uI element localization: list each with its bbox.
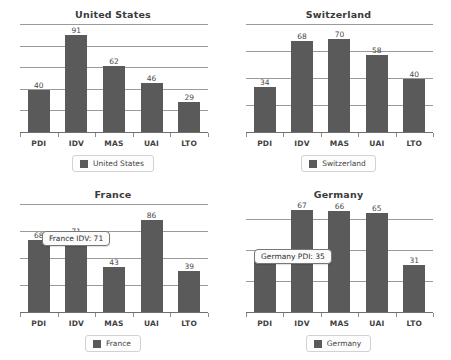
bar[interactable]: 46: [141, 83, 163, 133]
axis-tick: [208, 133, 209, 137]
x-axis-label-idv: IDV: [285, 319, 319, 328]
x-axis-labels: PDIIDVMASUAILTO: [20, 139, 208, 148]
bar-value-label: 46: [147, 74, 157, 83]
legend-label: France: [106, 339, 131, 348]
axis-tick: [321, 313, 322, 317]
chart-panel-france: France6871438639France IDV: 71PDIIDVMASU…: [0, 180, 226, 360]
bar-value-label: 39: [184, 262, 194, 271]
legend: United States: [0, 155, 226, 172]
bar[interactable]: 39: [178, 271, 200, 313]
axis-tick: [20, 133, 21, 137]
bar[interactable]: 68: [291, 41, 313, 133]
x-axis-label-lto: LTO: [172, 319, 206, 328]
x-axis-label-uai: UAI: [135, 139, 169, 148]
legend-label: Germany: [327, 339, 361, 348]
bar-slot: 46: [135, 25, 169, 133]
axis-tick: [208, 313, 209, 317]
x-axis-ticks: [246, 313, 433, 319]
bar[interactable]: 62: [103, 66, 125, 133]
bar[interactable]: 58: [366, 55, 388, 133]
axis-tick: [358, 313, 359, 317]
bar-slot: 65: [360, 205, 394, 313]
bar-slot: 29: [172, 25, 206, 133]
x-axis-label-pdi: PDI: [248, 139, 282, 148]
bar[interactable]: 34: [254, 87, 276, 133]
bar[interactable]: 40: [403, 79, 425, 133]
bar-slot: 43: [97, 205, 131, 313]
bar[interactable]: 71: [65, 236, 87, 313]
axis-tick: [170, 313, 171, 317]
axis-tick: [433, 133, 434, 137]
axis-tick: [170, 133, 171, 137]
x-axis-ticks: [20, 133, 208, 139]
bar-slot: 68: [22, 205, 56, 313]
bar[interactable]: 40: [28, 90, 50, 133]
legend: Switzerland: [226, 155, 451, 172]
bar[interactable]: 29: [178, 102, 200, 133]
bar-value-label: 65: [372, 204, 382, 213]
chart-title: United States: [0, 0, 226, 20]
axis-tick: [246, 133, 247, 137]
chart-title: Switzerland: [226, 0, 451, 20]
bar[interactable]: 31: [403, 265, 425, 313]
bar[interactable]: 68: [28, 240, 50, 313]
bar-value-label: 68: [297, 32, 307, 41]
legend-item[interactable]: France: [85, 335, 141, 352]
legend-swatch-icon: [309, 160, 317, 168]
legend-item[interactable]: Switzerland: [301, 155, 376, 172]
bar-slot: 34: [248, 25, 282, 133]
chart-title: Germany: [226, 180, 451, 200]
bar[interactable]: 35: [254, 259, 276, 313]
bar[interactable]: 43: [103, 267, 125, 313]
legend-item[interactable]: United States: [72, 155, 154, 172]
bar-series: 3468705840: [246, 25, 433, 133]
legend-label: Switzerland: [322, 159, 366, 168]
x-axis-label-idv: IDV: [59, 319, 93, 328]
bar-value-label: 66: [335, 202, 345, 211]
bar-value-label: 58: [372, 46, 382, 55]
x-axis-label-idv: IDV: [59, 139, 93, 148]
x-axis-label-lto: LTO: [397, 139, 431, 148]
x-axis-labels: PDIIDVMASUAILTO: [246, 319, 433, 328]
axis-tick: [133, 133, 134, 137]
bar-value-label: 43: [109, 258, 119, 267]
axis-tick: [283, 313, 284, 317]
legend: Germany: [226, 335, 451, 352]
bar[interactable]: 70: [328, 39, 350, 134]
bar-value-label: 70: [335, 30, 345, 39]
bar[interactable]: 86: [141, 220, 163, 313]
x-axis-label-mas: MAS: [323, 319, 357, 328]
axis-tick: [95, 313, 96, 317]
bar[interactable]: 91: [65, 35, 87, 133]
bar-slot: 62: [97, 25, 131, 133]
legend-swatch-icon: [80, 160, 88, 168]
bar-slot: 71: [59, 205, 93, 313]
axis-tick: [95, 133, 96, 137]
bar[interactable]: 65: [366, 213, 388, 313]
chart-grid: United States4091624629PDIIDVMASUAILTOUn…: [0, 0, 451, 360]
chart-panel-united-states: United States4091624629PDIIDVMASUAILTOUn…: [0, 0, 226, 180]
bar-slot: 70: [323, 25, 357, 133]
plot-area: 3567666531Germany PDI: 35: [246, 205, 433, 313]
axis-tick: [58, 133, 59, 137]
bar-slot: 86: [135, 205, 169, 313]
bar[interactable]: 66: [328, 211, 350, 313]
axis-tick: [396, 313, 397, 317]
bar-value-label: 40: [409, 70, 419, 79]
x-axis-label-pdi: PDI: [22, 139, 56, 148]
x-axis-label-uai: UAI: [135, 319, 169, 328]
x-axis-label-mas: MAS: [97, 139, 131, 148]
bar-value-label: 31: [409, 256, 419, 265]
bar-series: 6871438639: [20, 205, 208, 313]
bar-value-label: 67: [297, 201, 307, 210]
axis-tick: [133, 313, 134, 317]
bar-value-label: 29: [184, 93, 194, 102]
chart-panel-germany: Germany3567666531Germany PDI: 35PDIIDVMA…: [226, 180, 451, 360]
x-axis-labels: PDIIDVMASUAILTO: [246, 139, 433, 148]
bar-series: 4091624629: [20, 25, 208, 133]
axis-tick: [358, 133, 359, 137]
bar-slot: 68: [285, 25, 319, 133]
x-axis-ticks: [20, 313, 208, 319]
x-axis-labels: PDIIDVMASUAILTO: [20, 319, 208, 328]
legend-item[interactable]: Germany: [306, 335, 371, 352]
